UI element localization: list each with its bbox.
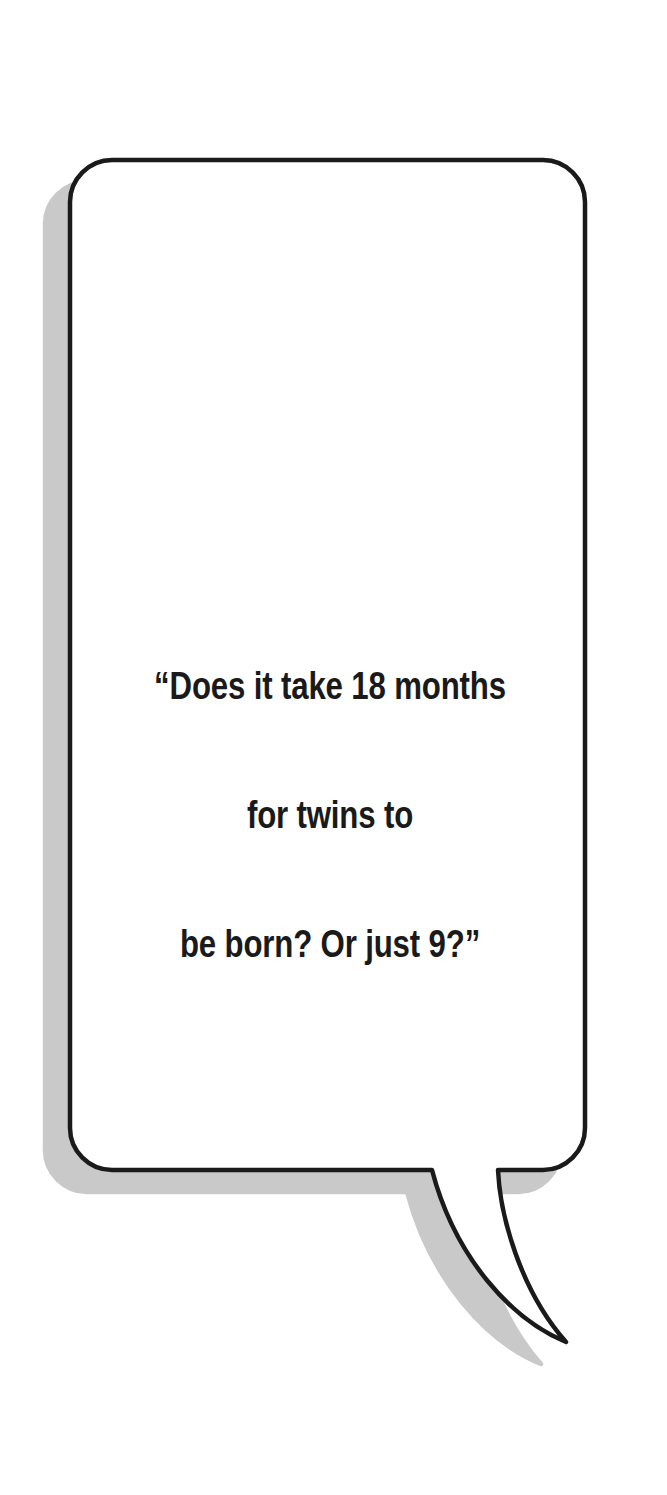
quote-text: “Does it take 18 months for twins to be … (150, 578, 510, 1051)
quote-line-1: “Does it take 18 months (150, 664, 510, 707)
quote-line-2: for twins to (150, 793, 510, 836)
image-canvas: “Does it take 18 months for twins to be … (0, 0, 667, 1495)
quote-line-3: be born? Or just 9?” (150, 922, 510, 965)
